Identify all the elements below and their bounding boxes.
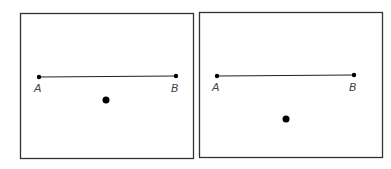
diagram-canvas: A B A B bbox=[0, 0, 391, 169]
label-a-right: A bbox=[211, 81, 220, 94]
panel-left: A B bbox=[21, 14, 194, 159]
label-b-right: B bbox=[349, 81, 357, 94]
segment-ab-left bbox=[39, 76, 176, 77]
point-b-left bbox=[174, 74, 178, 78]
dot-left bbox=[103, 97, 110, 104]
panel-right: A B bbox=[200, 13, 383, 158]
label-b-left: B bbox=[171, 82, 179, 95]
point-b-right bbox=[352, 73, 356, 77]
point-a-right bbox=[215, 74, 219, 78]
panel-left-frame bbox=[21, 14, 194, 159]
segment-ab-right bbox=[217, 75, 354, 76]
label-a-left: A bbox=[33, 82, 42, 95]
point-a-left bbox=[37, 75, 41, 79]
dot-right bbox=[283, 116, 290, 123]
